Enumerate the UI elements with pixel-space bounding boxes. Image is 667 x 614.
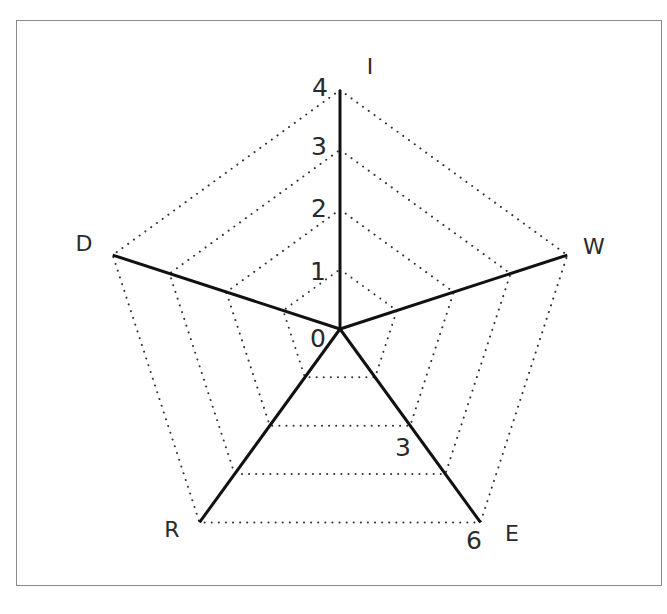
tick-label-4: 4	[312, 73, 328, 102]
spoke-d	[113, 255, 340, 329]
spoke-e	[340, 329, 481, 522]
axis-label-e: E	[505, 521, 519, 546]
tick-label-2: 2	[311, 194, 327, 223]
tick-label-1: 1	[310, 257, 326, 286]
axis-label-r: R	[164, 517, 179, 542]
axis-label-w: W	[583, 234, 605, 259]
tick-label-e-6: 6	[466, 526, 482, 555]
spoke-w	[340, 255, 567, 329]
tick-label-e-3: 3	[395, 433, 411, 462]
tick-label-0: 0	[310, 324, 326, 353]
radar-chart: I W E R D 4 3 2 1 0 3 6	[0, 0, 667, 614]
spoke-r	[200, 329, 341, 522]
axis-label-i: I	[367, 54, 374, 79]
axis-label-d: D	[76, 231, 93, 256]
tick-label-3: 3	[311, 132, 327, 161]
radar-spokes	[113, 90, 568, 522]
